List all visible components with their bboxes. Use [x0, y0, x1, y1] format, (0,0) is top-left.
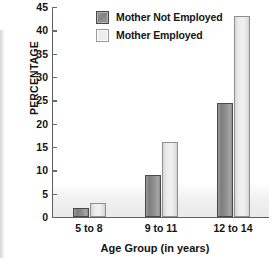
y-axis-tick-mark — [52, 147, 57, 148]
y-axis-tick-labels: 051015202530354045 — [26, 0, 48, 264]
legend-swatch-icon-dark — [96, 11, 109, 24]
bar — [73, 208, 89, 217]
y-axis-tick-mark — [52, 54, 57, 55]
y-axis-tick-mark — [52, 124, 57, 125]
legend-item-label: Mother Not Employed — [116, 11, 223, 23]
y-axis-tick-mark — [52, 30, 57, 31]
y-axis-tick-label: 45 — [26, 1, 48, 13]
y-axis-tick-label: 0 — [26, 211, 48, 223]
x-axis-tick-label: 5 to 8 — [51, 222, 127, 234]
bar — [90, 203, 106, 217]
y-axis-tick-mark — [52, 194, 57, 195]
y-axis-tick-label: 5 — [26, 188, 48, 200]
legend-item-mother-employed: Mother Employed — [96, 27, 223, 43]
x-axis-tick-label: 12 to 14 — [195, 222, 271, 234]
legend: Mother Not Employed Mother Employed — [96, 9, 223, 45]
bar — [145, 175, 161, 217]
x-axis-title: Age Group (in years) — [40, 242, 270, 254]
x-axis-tick-label: 9 to 11 — [123, 222, 199, 234]
y-axis-tick-mark — [52, 217, 57, 218]
y-axis-tick-label: 30 — [26, 71, 48, 83]
bar — [217, 103, 233, 217]
y-axis-tick-mark — [52, 7, 57, 8]
y-axis-tick-mark — [52, 100, 57, 101]
y-axis-tick-mark — [52, 170, 57, 171]
y-axis-tick-label: 35 — [26, 48, 48, 60]
y-axis-tick-mark — [52, 77, 57, 78]
legend-item-label: Mother Employed — [116, 29, 203, 41]
y-axis-tick-label: 25 — [26, 94, 48, 106]
y-axis-tick-label: 15 — [26, 141, 48, 153]
bar — [162, 142, 178, 217]
legend-swatch-icon-light — [96, 29, 109, 42]
x-axis-tick-labels: 5 to 89 to 1112 to 14 — [53, 222, 269, 240]
y-axis-tick-label: 10 — [26, 164, 48, 176]
scan-edge-artifact — [0, 30, 4, 258]
legend-item-mother-not-employed: Mother Not Employed — [96, 9, 223, 25]
y-axis-tick-label: 40 — [26, 24, 48, 36]
y-axis-tick-label: 20 — [26, 118, 48, 130]
bar — [234, 16, 250, 217]
x-axis-line — [52, 217, 269, 218]
bar-chart: PERCENTAGE 051015202530354045 5 to 89 to… — [0, 0, 279, 264]
